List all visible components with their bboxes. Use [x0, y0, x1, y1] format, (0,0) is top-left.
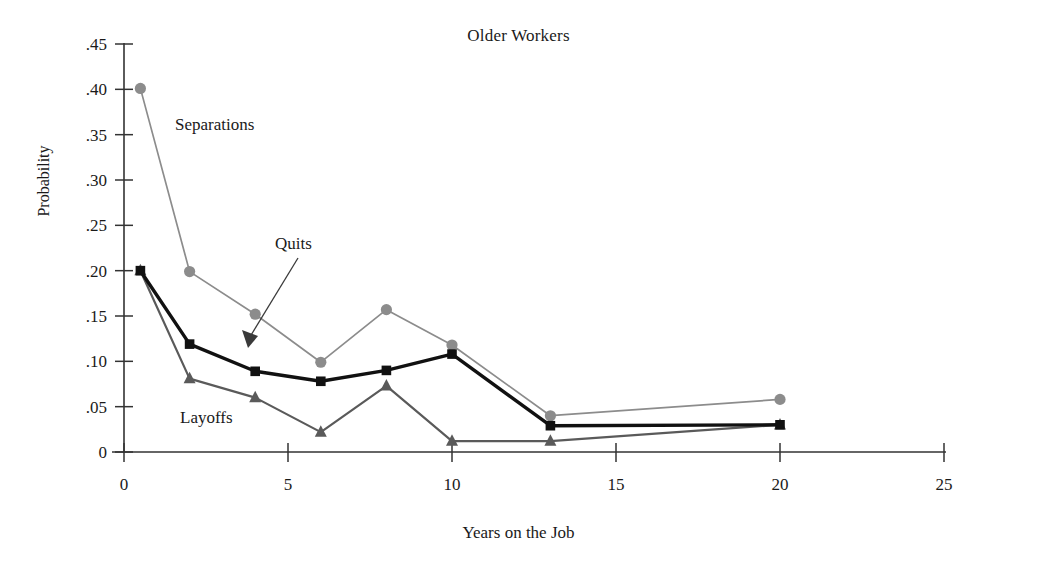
x-tick-label-3: 15	[608, 475, 625, 494]
data-point-layoffs-4	[380, 379, 392, 390]
y-tick-label-8: .40	[86, 80, 107, 99]
data-point-separations-2	[250, 309, 261, 320]
data-point-quits-1	[185, 339, 195, 349]
x-tick-label-5: 25	[936, 475, 953, 494]
y-tick-label-9: .45	[86, 35, 107, 54]
data-point-quits-2	[250, 367, 260, 377]
data-point-separations-1	[184, 266, 195, 277]
x-tick-label-4: 20	[772, 475, 789, 494]
y-tick-label-5: .25	[86, 216, 107, 235]
series-annotation-layoffs: Layoffs	[180, 408, 233, 428]
y-tick-label-1: .05	[86, 398, 107, 417]
chart-container: Older Workers Probability Years on the J…	[0, 0, 1037, 574]
y-tick-label-2: .10	[86, 352, 107, 371]
series-line-separations	[140, 88, 780, 415]
series-annotation-quits: Quits	[275, 234, 312, 254]
x-tick-label-0: 0	[120, 475, 129, 494]
plot-area: 0.05.10.15.20.25.30.35.40.450510152025	[0, 0, 1037, 574]
y-tick-label-3: .15	[86, 307, 107, 326]
data-point-quits-3	[316, 376, 326, 386]
y-tick-label-7: .35	[86, 126, 107, 145]
data-point-quits-4	[382, 366, 392, 376]
series-line-layoffs	[140, 271, 780, 441]
x-tick-label-2: 10	[444, 475, 461, 494]
data-point-quits-6	[546, 421, 556, 431]
data-point-separations-0	[135, 83, 146, 94]
series-line-quits	[140, 271, 780, 426]
data-point-separations-5	[446, 339, 457, 350]
x-tick-label-1: 5	[284, 475, 293, 494]
y-tick-label-0: 0	[99, 443, 108, 462]
data-point-quits-0	[136, 266, 146, 276]
data-point-quits-5	[447, 349, 457, 359]
data-point-separations-7	[774, 394, 785, 405]
data-point-separations-4	[381, 304, 392, 315]
data-point-separations-6	[545, 410, 556, 421]
data-point-quits-7	[775, 420, 785, 430]
data-point-separations-3	[315, 357, 326, 368]
series-annotation-separations: Separations	[175, 115, 254, 135]
data-point-layoffs-1	[184, 372, 196, 383]
y-tick-label-4: .20	[86, 262, 107, 281]
quits-arrow-head	[242, 330, 258, 348]
y-tick-label-6: .30	[86, 171, 107, 190]
